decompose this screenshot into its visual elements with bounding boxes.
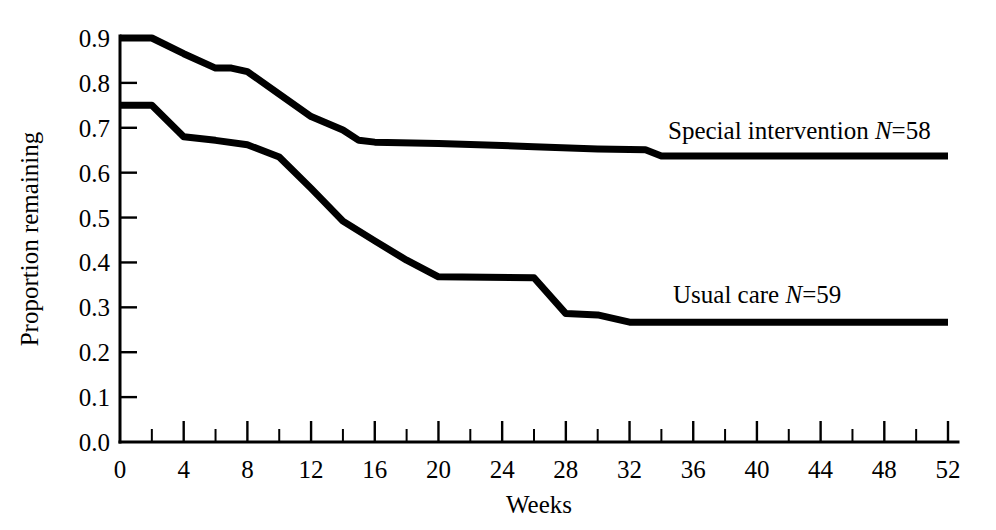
y-tick-label: 0.8 bbox=[79, 70, 110, 97]
x-axis-minor-ticks bbox=[152, 429, 916, 442]
x-tick-label: 28 bbox=[553, 456, 578, 483]
y-axis-title: Proportion remaining bbox=[16, 131, 43, 346]
y-axis-tick-labels: 0.00.10.20.30.40.50.60.70.80.9 bbox=[79, 25, 111, 456]
y-tick-label: 0.6 bbox=[79, 160, 110, 187]
x-tick-label: 4 bbox=[177, 456, 190, 483]
y-tick-label: 0.2 bbox=[79, 339, 110, 366]
kaplan-meier-chart-figure: 0.00.10.20.30.40.50.60.70.80.9 048121620… bbox=[0, 0, 996, 530]
chart-canvas: 0.00.10.20.30.40.50.60.70.80.9 048121620… bbox=[0, 0, 996, 530]
x-axis-tick-labels: 0481216202428323640444852 bbox=[114, 456, 961, 483]
x-axis-title: Weeks bbox=[506, 491, 572, 518]
x-tick-label: 52 bbox=[936, 456, 961, 483]
x-tick-label: 16 bbox=[362, 456, 387, 483]
y-tick-label: 0.4 bbox=[79, 249, 111, 276]
y-tick-label: 0.9 bbox=[79, 25, 110, 52]
x-tick-label: 40 bbox=[744, 456, 769, 483]
y-axis-ticks bbox=[120, 38, 137, 397]
x-tick-label: 24 bbox=[490, 456, 516, 483]
axes-group bbox=[120, 36, 958, 442]
x-tick-label: 0 bbox=[114, 456, 127, 483]
y-tick-label: 0.1 bbox=[79, 384, 110, 411]
y-tick-label: 0.7 bbox=[79, 115, 110, 142]
x-tick-label: 44 bbox=[808, 456, 834, 483]
usual-care-series-label: Usual care N=59 bbox=[673, 281, 841, 308]
x-tick-label: 12 bbox=[299, 456, 324, 483]
y-tick-label: 0.3 bbox=[79, 294, 110, 321]
x-axis-ticks bbox=[184, 421, 948, 442]
x-tick-label: 32 bbox=[617, 456, 642, 483]
x-tick-label: 8 bbox=[241, 456, 254, 483]
x-tick-label: 20 bbox=[426, 456, 451, 483]
y-tick-label: 0.0 bbox=[79, 429, 110, 456]
special-intervention-series-label: Special intervention N=58 bbox=[668, 117, 931, 144]
y-tick-label: 0.5 bbox=[79, 205, 110, 232]
x-tick-label: 36 bbox=[681, 456, 706, 483]
x-tick-label: 48 bbox=[872, 456, 897, 483]
data-series-group bbox=[120, 38, 948, 322]
